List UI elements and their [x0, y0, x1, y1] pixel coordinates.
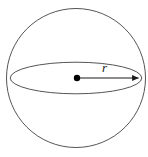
sphere-figure-svg: [0, 0, 148, 157]
center-point-dot: [74, 75, 80, 81]
radius-label: r: [102, 60, 107, 75]
sphere-diagram: r: [0, 0, 148, 157]
